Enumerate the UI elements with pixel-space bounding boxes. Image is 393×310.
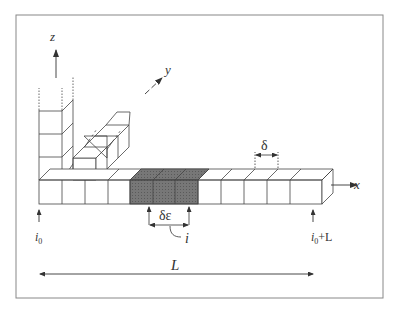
y-axis-label: y	[163, 62, 171, 77]
x-row-cubes	[39, 169, 333, 204]
length-label: L	[170, 257, 179, 273]
x-axis-label: x	[353, 177, 360, 192]
segment-width-label: δε	[159, 208, 172, 223]
cell-size-dimension	[255, 152, 278, 168]
end-index-label: i0+L	[311, 230, 332, 246]
z-column-cubes	[39, 76, 73, 180]
lattice-diagram: z y x δ δε i i0 i0+L L	[0, 0, 393, 310]
y-row-cubes	[62, 98, 141, 180]
cell-size-label: δ	[261, 138, 268, 153]
figure-frame	[16, 15, 383, 298]
start-index-label: i0	[35, 230, 42, 246]
z-axis-label: z	[49, 29, 55, 44]
segment-index-label: i	[185, 231, 189, 246]
y-axis-arrow	[145, 78, 162, 94]
